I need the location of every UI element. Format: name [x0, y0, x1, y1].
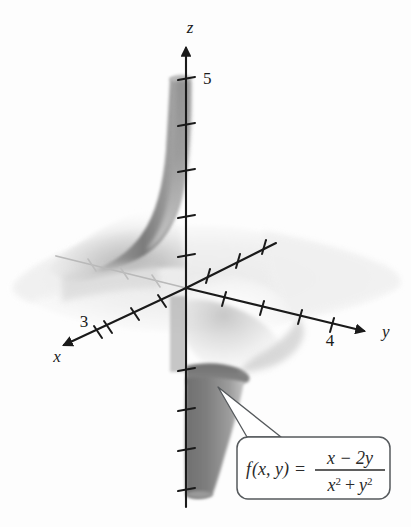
x-axis-tick-label: 3	[80, 312, 89, 331]
callout-function-name: f(x, y)=	[246, 459, 305, 480]
surface-axis-left-strip	[170, 296, 186, 372]
z-axis-tick-label: 5	[203, 69, 212, 88]
callout-numerator: x − 2y	[326, 448, 373, 468]
y-axis-tick-label: 4	[326, 331, 335, 350]
y-axis-label: y	[380, 322, 390, 341]
callout-denominator: x2+y2	[326, 475, 372, 495]
x-axis-label: x	[52, 347, 61, 366]
surface-plot-figure: z 5 x 3 y 4 f(x, y)= x − 2y x2+y2	[0, 0, 411, 527]
z-axis-label: z	[186, 18, 194, 37]
